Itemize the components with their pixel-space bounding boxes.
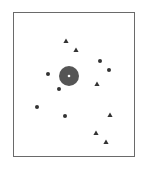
circle-marker xyxy=(98,59,102,63)
circle-marker xyxy=(63,114,67,118)
circle-marker xyxy=(107,68,111,72)
triangle-marker xyxy=(93,130,98,135)
triangle-marker xyxy=(63,38,68,43)
center-dot xyxy=(68,75,71,78)
circle-marker xyxy=(57,87,61,91)
triangle-marker xyxy=(103,139,108,144)
circle-marker xyxy=(35,105,39,109)
point-diagram xyxy=(0,0,142,169)
triangle-marker xyxy=(94,81,99,86)
triangle-marker xyxy=(107,112,112,117)
triangle-marker xyxy=(73,47,78,52)
circle-marker xyxy=(46,72,50,76)
